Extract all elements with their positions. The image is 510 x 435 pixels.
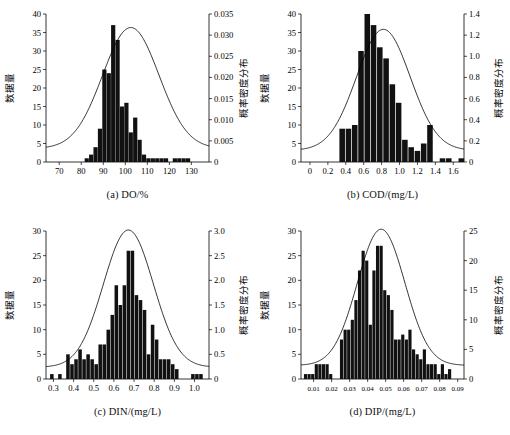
- svg-text:2.0: 2.0: [214, 275, 225, 285]
- svg-text:0.5: 0.5: [88, 383, 99, 393]
- svg-text:0.7: 0.7: [129, 383, 140, 393]
- svg-text:20: 20: [287, 83, 296, 93]
- svg-text:15: 15: [469, 285, 478, 295]
- svg-text:1.0: 1.0: [189, 383, 200, 393]
- figure-histograms-with-density-curves: 708090100110120130051015202530354000.005…: [0, 0, 510, 435]
- svg-text:10: 10: [287, 325, 296, 335]
- svg-text:35: 35: [287, 28, 296, 38]
- svg-text:1.5: 1.5: [214, 300, 225, 310]
- y-axis-label-right: 概率密度分布: [493, 58, 504, 118]
- svg-text:15: 15: [32, 102, 41, 112]
- svg-text:2.5: 2.5: [214, 251, 225, 261]
- svg-text:0.07: 0.07: [416, 385, 429, 393]
- chart-panel-do: 708090100110120130051015202530354000.005…: [0, 0, 255, 217]
- svg-text:90: 90: [99, 166, 108, 176]
- svg-text:0.6: 0.6: [109, 383, 120, 393]
- svg-text:1.2: 1.2: [412, 166, 423, 176]
- svg-text:1.0: 1.0: [214, 325, 225, 335]
- svg-text:0.6: 0.6: [358, 166, 369, 176]
- panel-a-plot: 708090100110120130051015202530354000.005…: [0, 0, 255, 190]
- svg-text:0.09: 0.09: [452, 385, 465, 393]
- svg-text:0: 0: [292, 374, 296, 384]
- svg-text:20: 20: [32, 83, 41, 93]
- panel-b-plot: 00.20.40.60.81.01.21.41.6051015202530354…: [255, 0, 510, 190]
- svg-text:1.0: 1.0: [394, 166, 405, 176]
- svg-text:1.4: 1.4: [430, 166, 441, 176]
- svg-text:0.01: 0.01: [307, 385, 320, 393]
- svg-text:0.5: 0.5: [214, 349, 225, 359]
- svg-text:25: 25: [287, 251, 296, 261]
- svg-text:0.005: 0.005: [214, 136, 233, 146]
- y-axis-label-right: 概率密度分布: [493, 275, 504, 335]
- svg-text:5: 5: [292, 139, 296, 149]
- svg-text:120: 120: [163, 166, 176, 176]
- svg-text:1.2: 1.2: [469, 30, 480, 40]
- svg-text:0.4: 0.4: [68, 383, 79, 393]
- panel-c-plot: 0.30.40.50.60.70.80.91.005101520253000.5…: [0, 217, 255, 407]
- svg-text:40: 40: [287, 9, 296, 19]
- svg-text:0.06: 0.06: [398, 385, 411, 393]
- svg-text:0.4: 0.4: [469, 115, 480, 125]
- y-axis-label-right: 概率密度分布: [238, 58, 249, 118]
- y-axis-label-right: 概率密度分布: [238, 275, 249, 335]
- svg-text:0.030: 0.030: [214, 30, 233, 40]
- svg-text:20: 20: [469, 256, 478, 266]
- svg-text:10: 10: [287, 120, 296, 130]
- svg-text:25: 25: [32, 65, 41, 75]
- svg-text:15: 15: [32, 300, 41, 310]
- svg-text:0.020: 0.020: [214, 72, 233, 82]
- svg-text:130: 130: [185, 166, 198, 176]
- panel-b-caption: (b) COD/(mg/L): [255, 189, 510, 200]
- svg-text:0: 0: [37, 374, 41, 384]
- svg-text:0.03: 0.03: [344, 385, 357, 393]
- panel-d-plot: 0.010.020.030.040.050.060.070.080.090510…: [255, 217, 510, 407]
- svg-text:100: 100: [119, 166, 132, 176]
- y-axis-label-left: 数据量: [259, 73, 270, 103]
- y-axis-label-left: 数据量: [259, 290, 270, 320]
- svg-text:1.4: 1.4: [469, 9, 480, 19]
- svg-text:1.6: 1.6: [448, 166, 459, 176]
- svg-text:30: 30: [287, 46, 296, 56]
- svg-text:30: 30: [32, 46, 41, 56]
- panel-c-caption: (c) DIN/(mg/L): [0, 406, 255, 417]
- svg-text:5: 5: [37, 349, 41, 359]
- svg-text:70: 70: [55, 166, 64, 176]
- svg-text:30: 30: [32, 226, 41, 236]
- chart-panel-cod: 00.20.40.60.81.01.21.41.6051015202530354…: [255, 0, 510, 217]
- svg-text:10: 10: [32, 120, 41, 130]
- svg-text:30: 30: [287, 226, 296, 236]
- svg-text:0: 0: [469, 374, 473, 384]
- svg-text:3.0: 3.0: [214, 226, 225, 236]
- svg-text:40: 40: [32, 9, 41, 19]
- svg-text:10: 10: [32, 325, 41, 335]
- svg-text:0.4: 0.4: [340, 166, 351, 176]
- svg-text:0.025: 0.025: [214, 51, 233, 61]
- svg-text:0.015: 0.015: [214, 94, 233, 104]
- svg-text:0.04: 0.04: [362, 385, 375, 393]
- svg-text:20: 20: [32, 275, 41, 285]
- svg-text:0.8: 0.8: [376, 166, 387, 176]
- svg-text:15: 15: [287, 300, 296, 310]
- panel-a-caption: (a) DO/%: [0, 189, 255, 200]
- svg-text:0.2: 0.2: [322, 166, 333, 176]
- svg-text:110: 110: [141, 166, 154, 176]
- svg-text:0: 0: [214, 157, 218, 167]
- svg-text:0.02: 0.02: [325, 385, 338, 393]
- svg-text:0: 0: [308, 166, 312, 176]
- svg-text:0.2: 0.2: [469, 136, 480, 146]
- svg-text:1.0: 1.0: [469, 51, 480, 61]
- svg-text:25: 25: [469, 226, 478, 236]
- svg-text:0: 0: [37, 157, 41, 167]
- svg-text:0.6: 0.6: [469, 94, 480, 104]
- svg-text:0.035: 0.035: [214, 9, 233, 19]
- svg-text:10: 10: [469, 315, 478, 325]
- chart-panel-din: 0.30.40.50.60.70.80.91.005101520253000.5…: [0, 217, 255, 434]
- svg-text:5: 5: [37, 139, 41, 149]
- svg-text:35: 35: [32, 28, 41, 38]
- svg-text:0: 0: [469, 157, 473, 167]
- svg-text:0: 0: [214, 374, 218, 384]
- svg-text:5: 5: [292, 349, 296, 359]
- svg-text:25: 25: [287, 65, 296, 75]
- panel-d-caption: (d) DIP/(mg/L): [255, 406, 510, 417]
- svg-text:0.9: 0.9: [169, 383, 180, 393]
